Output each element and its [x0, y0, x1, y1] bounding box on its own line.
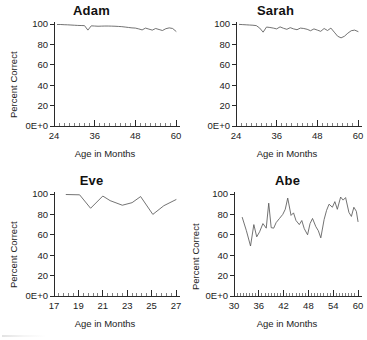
svg-text:40: 40 [219, 80, 230, 91]
series-line-abe [242, 197, 358, 246]
svg-text:20: 20 [37, 100, 48, 111]
svg-text:0E+0: 0E+0 [206, 290, 228, 301]
svg-text:80: 80 [37, 39, 48, 50]
multi-panel-line-chart-figure: Adam Percent Correct Age in Months 0E+02… [0, 0, 367, 340]
svg-text:60: 60 [353, 300, 364, 311]
chart-panel-adam: Adam Percent Correct Age in Months 0E+02… [0, 0, 183, 170]
svg-text:100: 100 [32, 188, 48, 199]
svg-text:48: 48 [130, 130, 141, 141]
svg-text:60: 60 [217, 229, 228, 240]
svg-text:80: 80 [37, 209, 48, 220]
svg-text:100: 100 [32, 18, 48, 29]
svg-text:20: 20 [217, 270, 228, 281]
series-line-adam [57, 25, 176, 32]
svg-text:40: 40 [37, 250, 48, 261]
svg-text:0E+0: 0E+0 [208, 120, 230, 131]
svg-text:24: 24 [49, 130, 60, 141]
svg-text:60: 60 [219, 59, 230, 70]
series-line-eve [66, 195, 176, 215]
svg-text:21: 21 [98, 300, 109, 311]
svg-text:40: 40 [217, 250, 228, 261]
svg-text:36: 36 [254, 300, 265, 311]
svg-text:54: 54 [328, 300, 339, 311]
plot-area-abe: 0E+020406080100303642485460 [184, 170, 367, 340]
plot-area-eve: 0E+020406080100171921232527 [0, 170, 183, 340]
svg-text:80: 80 [217, 209, 228, 220]
svg-text:48: 48 [303, 300, 314, 311]
svg-text:40: 40 [37, 80, 48, 91]
svg-text:20: 20 [37, 270, 48, 281]
svg-text:19: 19 [73, 300, 84, 311]
series-line-sarah [239, 24, 358, 37]
svg-text:27: 27 [171, 300, 182, 311]
chart-panel-abe: Abe Percent Correct Age in Months 0E+020… [184, 170, 367, 340]
plot-area-sarah: 0E+02040608010024364860 [184, 0, 367, 170]
chart-panel-sarah: Sarah Age in Months 0E+02040608010024364… [184, 0, 367, 170]
svg-text:30: 30 [229, 300, 240, 311]
svg-text:0E+0: 0E+0 [26, 120, 48, 131]
scan-edge-artifact [2, 335, 46, 337]
svg-text:60: 60 [353, 130, 364, 141]
svg-text:42: 42 [278, 300, 289, 311]
chart-panel-eve: Eve Percent Correct Age in Months 0E+020… [0, 170, 183, 340]
svg-text:60: 60 [171, 130, 182, 141]
svg-text:17: 17 [49, 300, 60, 311]
svg-text:80: 80 [219, 39, 230, 50]
svg-text:24: 24 [231, 130, 242, 141]
svg-text:36: 36 [89, 130, 100, 141]
svg-text:60: 60 [37, 59, 48, 70]
svg-text:48: 48 [312, 130, 323, 141]
svg-text:0E+0: 0E+0 [26, 290, 48, 301]
svg-text:23: 23 [122, 300, 133, 311]
svg-text:25: 25 [146, 300, 157, 311]
svg-text:36: 36 [271, 130, 282, 141]
plot-area-adam: 0E+02040608010024364860 [0, 0, 183, 170]
svg-text:60: 60 [37, 229, 48, 240]
svg-text:20: 20 [219, 100, 230, 111]
svg-text:100: 100 [214, 18, 230, 29]
svg-text:100: 100 [212, 188, 228, 199]
